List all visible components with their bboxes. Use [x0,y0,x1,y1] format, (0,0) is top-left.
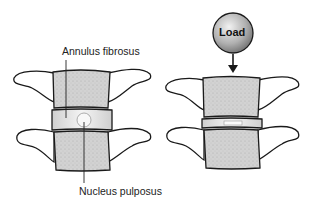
load-label: Load [219,26,245,38]
nucleus-pulposus-label: Nucleus pulposus [79,185,162,197]
spine-diagram [0,0,312,205]
left-spine [14,69,151,171]
load-indicator [213,13,253,73]
right-spine [166,77,299,170]
annulus-fibrosus-label: Annulus fibrosus [62,45,140,57]
down-arrow-icon [228,65,238,73]
